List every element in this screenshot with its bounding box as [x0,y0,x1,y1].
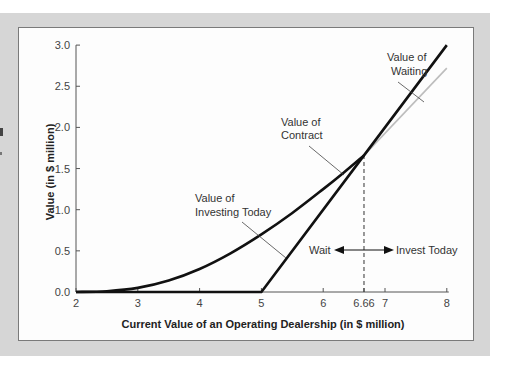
x-tick-label: 6.66 [353,297,374,309]
y-tick-label: 0.0 [55,286,70,298]
annotation-waiting-leader [398,82,424,102]
x-tick-label: 3 [135,297,141,309]
y-axis-title: Value (in $ million) [44,123,56,220]
annotation-waiting-line1: Value of [387,51,427,63]
x-axis-title: Current Value of an Operating Dealership… [122,318,405,330]
annotation-waiting-line2: Waiting [391,65,427,77]
series-value-of-waiting-contract-value-beyond-6-66 [364,68,447,155]
annotation-contract-line1: Value of [281,116,321,128]
annotation-contract-leader [309,146,344,175]
series-value-of-investing-today [76,45,447,292]
y-tick-label: 1.5 [55,163,70,175]
x-tick-label: 8 [444,297,450,309]
tick-labels: 0.00.51.01.52.02.53.0234566.6678 [55,39,450,309]
label-invest-today: Invest Today [396,244,458,256]
annotation-investing-leader [242,222,286,258]
x-tick-label: 4 [197,297,203,309]
series-value-of-contract [76,155,364,292]
label-wait: Wait [309,244,331,256]
x-tick-label: 6 [320,297,326,309]
chart-svg: 0.00.51.01.52.02.53.0234566.6678 Value (… [0,0,505,365]
annotation-contract-line2: Contract [281,129,323,141]
y-tick-label: 1.0 [55,204,70,216]
y-tick-label: 0.5 [55,245,70,257]
y-tick-label: 2.0 [55,121,70,133]
annotation-investing-line1: Value of [195,192,235,204]
data-series [76,45,447,292]
x-tick-label: 7 [382,297,388,309]
y-tick-label: 2.5 [55,80,70,92]
axes [76,45,449,292]
x-tick-label: 2 [73,297,79,309]
annotation-investing-line2: Investing Today [195,206,272,218]
y-tick-label: 3.0 [55,39,70,51]
x-tick-label: 5 [258,297,264,309]
